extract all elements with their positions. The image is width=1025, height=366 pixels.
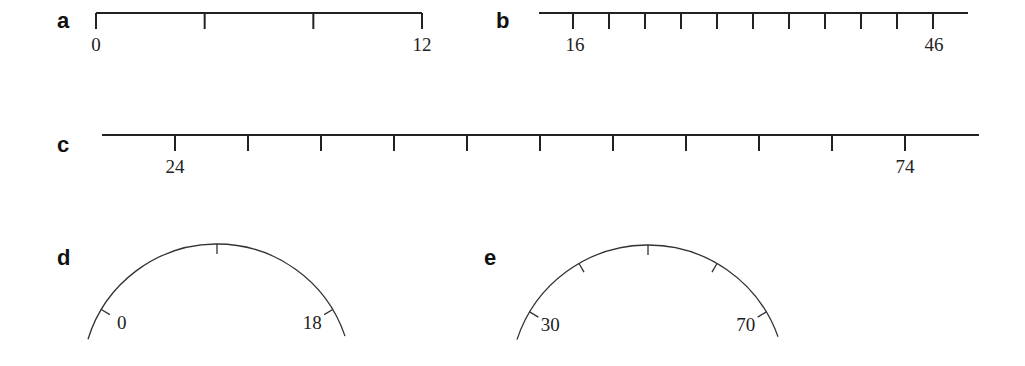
panel-label-e: e <box>484 245 496 270</box>
panel-label-a: a <box>57 8 70 33</box>
panel-label-b: b <box>496 8 509 33</box>
tick-label: 18 <box>303 312 322 333</box>
arc-tick-mark <box>101 309 110 314</box>
panel-label-d: d <box>57 245 70 270</box>
panel-e-arc-scale: e 3070 <box>484 245 778 340</box>
arc-tick-mark <box>324 309 333 314</box>
tick-label: 24 <box>166 156 186 177</box>
tick-label: 70 <box>736 314 755 335</box>
arc-tick-mark <box>579 263 584 272</box>
tick-label: 12 <box>413 34 432 55</box>
number-line-figure: a 012 b 1646 c 2474 d 018 e 3070 <box>0 0 1025 366</box>
arc-tick-mark <box>758 312 767 317</box>
panel-label-c: c <box>57 132 69 157</box>
tick-label: 0 <box>117 312 127 333</box>
tick-label: 46 <box>925 34 944 55</box>
panel-b-linear-scale: b 1646 <box>496 8 968 55</box>
tick-label: 0 <box>91 34 101 55</box>
arc-tick-mark <box>712 263 717 272</box>
tick-label: 30 <box>541 314 560 335</box>
tick-label: 16 <box>566 34 585 55</box>
arc-tick-mark <box>530 312 539 317</box>
tick-label: 74 <box>896 156 916 177</box>
panel-a-linear-scale: a 012 <box>57 8 432 55</box>
panel-d-arc-scale: d 018 <box>57 244 345 339</box>
panel-c-linear-scale: c 2474 <box>57 132 979 177</box>
